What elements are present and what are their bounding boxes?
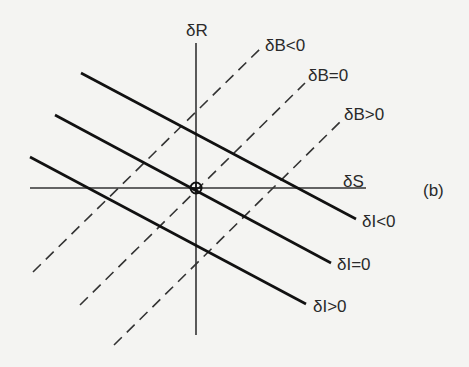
diagram-canvas [0,0,469,367]
solid-line-di-lt-0 [81,73,356,219]
dashed-line-db-gt-0 [114,119,343,345]
solid-line-label-di-eq-0: δI=0 [337,256,371,273]
dashed-line-label-db-eq-0: δB=0 [308,67,348,84]
vertical-axis-label: δR [186,22,208,39]
dashed-line-label-db-lt-0: δB<0 [265,37,305,54]
solid-line-label-di-gt-0: δI>0 [313,298,347,315]
panel-label: (b) [423,182,444,199]
origin-marker-icon [191,183,202,194]
solid-line-di-gt-0 [30,157,306,304]
dashed-line-label-db-gt-0: δB>0 [344,106,384,123]
horizontal-axis-label: δS [343,173,364,190]
solid-line-label-di-lt-0: δI<0 [362,213,396,230]
solid-line-di-eq-0 [55,115,331,263]
